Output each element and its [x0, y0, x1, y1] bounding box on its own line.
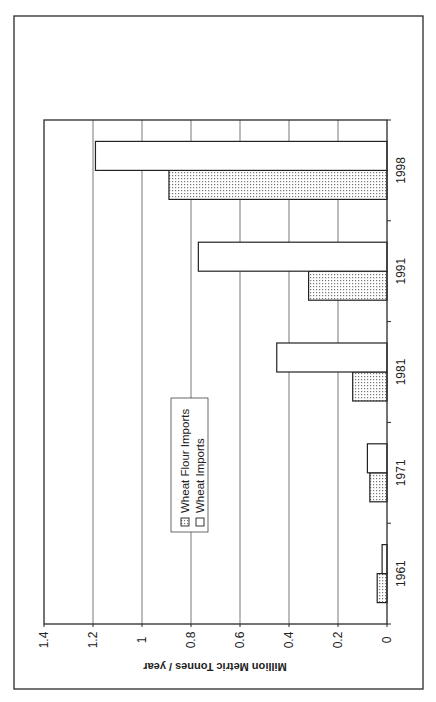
- bar-wheat-flour-1998: [169, 170, 387, 199]
- bar-wheat-1961: [382, 545, 387, 574]
- category-axis: 19611971198119911998: [387, 120, 408, 624]
- value-tick-label: 1.2: [86, 631, 100, 648]
- bar-wheat-1998: [95, 141, 387, 170]
- category-label: 1998: [394, 157, 408, 184]
- value-tick-label: 1: [135, 636, 149, 643]
- bar-wheat-flour-1971: [370, 473, 387, 502]
- bar-wheat-1991: [198, 242, 387, 271]
- value-tick-label: 0.2: [331, 631, 345, 648]
- bar-wheat-flour-1991: [309, 271, 387, 300]
- category-label: 1991: [394, 258, 408, 285]
- legend: Wheat Flour Imports Wheat Imports: [171, 398, 208, 532]
- value-tick-label: 1.4: [37, 631, 51, 648]
- chart: 00.20.40.60.811.21.4 1961197119811991199…: [0, 0, 436, 702]
- legend-swatch-wheat: [196, 518, 204, 526]
- bars: [95, 141, 387, 602]
- bar-wheat-flour-1961: [377, 574, 387, 603]
- value-axis-title: Million Metric Tonnes / year: [143, 661, 287, 673]
- value-tick-label: 0: [380, 636, 394, 643]
- chart-canvas: 00.20.40.60.811.21.4 1961197119811991199…: [0, 0, 436, 702]
- legend-label-wheat-flour: Wheat Flour Imports: [179, 409, 191, 513]
- bar-wheat-flour-1981: [353, 372, 387, 401]
- legend-label-wheat: Wheat Imports: [194, 438, 206, 513]
- category-label: 1971: [394, 459, 408, 486]
- category-label: 1981: [394, 358, 408, 385]
- value-axis: 00.20.40.60.811.21.4: [37, 624, 394, 648]
- value-tick-label: 0.6: [233, 631, 247, 648]
- value-tick-label: 0.4: [282, 631, 296, 648]
- category-label: 1961: [394, 560, 408, 587]
- bar-wheat-1981: [277, 343, 387, 372]
- value-tick-label: 0.8: [184, 631, 198, 648]
- legend-swatch-wheat-flour: [181, 518, 189, 526]
- bar-wheat-1971: [367, 444, 387, 473]
